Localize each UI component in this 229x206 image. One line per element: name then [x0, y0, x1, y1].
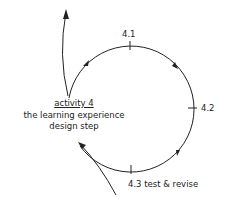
step-4-2-label: 4.2	[201, 104, 215, 113]
exit-arc	[62, 12, 68, 96]
activity-title: activity 4	[14, 99, 134, 108]
entry-arrow-icon	[78, 142, 86, 149]
activity-subtitle-line2: design step	[14, 122, 134, 131]
arrow-icon	[176, 150, 180, 156]
step-4-3-label: 4.3 test & revise	[128, 180, 198, 189]
activity-subtitle-line1: the learning experience	[14, 111, 134, 120]
exit-arrow-icon	[63, 9, 69, 19]
step-4-1-label: 4.1	[122, 30, 136, 39]
activity-block: activity 4 the learning experience desig…	[14, 99, 134, 131]
arrow-icon	[83, 60, 89, 66]
entry-arc	[80, 144, 116, 195]
